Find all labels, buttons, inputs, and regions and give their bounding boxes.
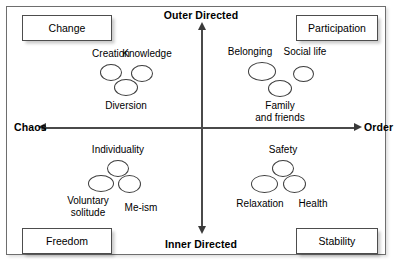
node-ellipse-me-ism (118, 175, 141, 193)
cluster-change: Creation Knowledge Diversion (80, 46, 190, 114)
node-ellipse-voluntary-solitude (88, 175, 114, 192)
node-ellipse-belonging (248, 62, 276, 81)
arrow-right-icon (354, 123, 362, 131)
arrow-down-icon (198, 226, 206, 234)
node-ellipse-health (283, 175, 306, 193)
node-ellipse-relaxation (251, 175, 278, 193)
node-label-family-and-friends: Familyand friends (255, 100, 304, 123)
node-label-individuality: Individuality (92, 144, 144, 156)
node-ellipse-knowledge (131, 65, 153, 82)
node-label-knowledge: Knowledge (122, 48, 171, 60)
node-ellipse-social-life (293, 66, 314, 82)
quadrant-box-freedom: Freedom (22, 228, 112, 254)
axis-label-inner-directed: Inner Directed (165, 238, 237, 250)
node-label-voluntary-solitude: Voluntarysolitude (67, 195, 109, 218)
quadrant-box-change: Change (22, 15, 112, 41)
axis-label-order: Order (364, 121, 393, 133)
node-label-safety: Safety (269, 144, 297, 156)
node-label-relaxation: Relaxation (236, 198, 283, 210)
node-ellipse-family-and-friends (268, 80, 292, 97)
diagram-canvas: Chaos Order Outer Directed Inner Directe… (0, 0, 400, 269)
vertical-axis (201, 28, 203, 228)
quadrant-box-participation: Participation (296, 15, 378, 41)
quadrant-box-stability: Stability (296, 228, 378, 254)
node-label-social-life: Social life (284, 46, 327, 58)
cluster-freedom: Individuality Voluntarysolitude Me-ism (58, 142, 178, 214)
node-label-diversion: Diversion (105, 100, 147, 112)
node-label-me-ism: Me-ism (125, 202, 158, 214)
axis-label-chaos: Chaos (14, 121, 47, 133)
node-ellipse-creation (100, 64, 122, 81)
node-ellipse-diversion (114, 79, 138, 96)
node-label-belonging: Belonging (228, 46, 272, 58)
cluster-stability: Safety Relaxation Health (228, 142, 348, 214)
arrow-up-icon (198, 22, 206, 30)
node-label-health: Health (299, 198, 328, 210)
axis-label-outer-directed: Outer Directed (164, 9, 238, 21)
cluster-participation: Belonging Social life Familyand friends (220, 44, 342, 118)
